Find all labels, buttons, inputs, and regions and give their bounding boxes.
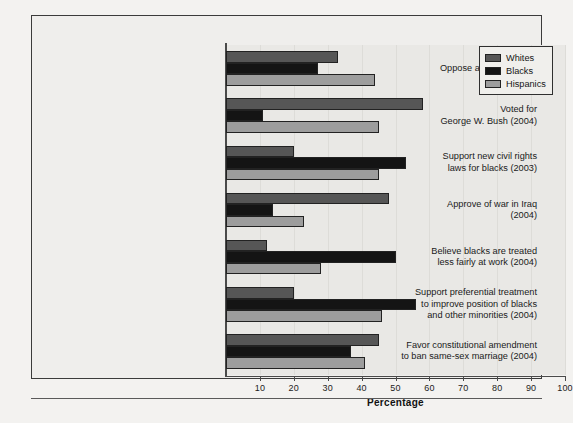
category-label-1: Voted forGeorge W. Bush (2004) — [373, 104, 541, 127]
tick-label-90: 90 — [516, 383, 546, 393]
gridline-20 — [294, 45, 295, 375]
chart-page: 102030405060708090100 Oppose abortion (2… — [0, 0, 573, 423]
bar-hispanics-3 — [226, 216, 304, 228]
tick-label-100: 100 — [550, 383, 573, 393]
category-label-line: Support new civil rights — [373, 151, 537, 163]
bar-hispanics-2 — [226, 169, 379, 181]
category-label-line: less fairly at work (2004) — [373, 257, 537, 269]
legend-label-blacks: Blacks — [506, 66, 533, 76]
category-label-2: Support new civil rightslaws for blacks … — [373, 151, 541, 174]
category-label-line: to improve position of blacks — [373, 299, 537, 311]
tick-label-60: 60 — [414, 383, 444, 393]
category-label-line: (2004) — [373, 210, 537, 222]
category-label-6: Favor constitutional amendmentto ban sam… — [373, 340, 541, 363]
bar-blacks-3 — [226, 204, 273, 216]
tick-mark-80 — [497, 376, 498, 381]
legend-item-whites: Whites — [485, 51, 546, 64]
tick-mark-30 — [328, 376, 329, 381]
category-label-line: to ban same-sex marriage (2004) — [373, 351, 537, 363]
bottom-rule — [31, 398, 542, 399]
legend-swatch-hispanics-icon — [485, 80, 501, 88]
tick-label-70: 70 — [448, 383, 478, 393]
legend-swatch-blacks-icon — [485, 67, 501, 75]
tick-mark-100 — [565, 376, 566, 381]
legend-swatch-whites-icon — [485, 54, 501, 62]
bar-blacks-0 — [226, 63, 318, 75]
tick-label-50: 50 — [381, 383, 411, 393]
tick-mark-90 — [531, 376, 532, 381]
bar-hispanics-4 — [226, 263, 321, 275]
gridline-100 — [565, 45, 566, 375]
category-label-line: laws for blacks (2003) — [373, 163, 537, 175]
bar-blacks-1 — [226, 110, 263, 122]
legend-label-whites: Whites — [506, 53, 534, 63]
gridline-40 — [362, 45, 363, 375]
tick-label-40: 40 — [347, 383, 377, 393]
tick-mark-10 — [260, 376, 261, 381]
figure-frame: 102030405060708090100 Oppose abortion (2… — [31, 15, 542, 379]
tick-mark-70 — [463, 376, 464, 381]
category-label-line: George W. Bush (2004) — [373, 116, 537, 128]
tick-label-80: 80 — [482, 383, 512, 393]
bar-whites-3 — [226, 193, 389, 205]
bar-whites-5 — [226, 287, 294, 299]
category-label-4: Believe blacks are treatedless fairly at… — [373, 246, 541, 269]
bar-blacks-4 — [226, 251, 396, 263]
legend-label-hispanics: Hispanics — [506, 79, 546, 89]
category-label-line: and other minorities (2004) — [373, 310, 537, 322]
bar-hispanics-5 — [226, 310, 382, 322]
bar-blacks-6 — [226, 346, 351, 358]
bar-whites-0 — [226, 51, 338, 63]
bar-hispanics-0 — [226, 74, 375, 86]
tick-mark-20 — [294, 376, 295, 381]
tick-mark-40 — [362, 376, 363, 381]
tick-mark-50 — [396, 376, 397, 381]
tick-mark-60 — [429, 376, 430, 381]
category-label-line: Favor constitutional amendment — [373, 340, 537, 352]
gridline-30 — [328, 45, 329, 375]
category-label-3: Approve of war in Iraq(2004) — [373, 199, 541, 222]
tick-label-20: 20 — [279, 383, 309, 393]
category-label-line: Support preferential treatment — [373, 287, 537, 299]
tick-label-10: 10 — [245, 383, 275, 393]
category-label-line: Approve of war in Iraq — [373, 199, 537, 211]
chart-legend: Whites Blacks Hispanics — [479, 46, 553, 95]
bar-whites-4 — [226, 240, 267, 252]
bar-whites-2 — [226, 146, 294, 158]
bar-whites-6 — [226, 334, 379, 346]
legend-item-blacks: Blacks — [485, 64, 546, 77]
tick-label-30: 30 — [313, 383, 343, 393]
bar-hispanics-6 — [226, 357, 365, 369]
bar-hispanics-1 — [226, 121, 379, 133]
category-label-line: Voted for — [373, 104, 537, 116]
legend-item-hispanics: Hispanics — [485, 77, 546, 90]
category-label-line: Believe blacks are treated — [373, 246, 537, 258]
category-label-5: Support preferential treatmentto improve… — [373, 287, 541, 322]
